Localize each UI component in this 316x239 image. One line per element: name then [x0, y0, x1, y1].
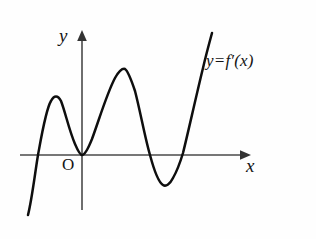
x-axis-label: x [246, 156, 254, 175]
y-axis-arrow-icon [77, 30, 87, 41]
y-axis-label: y [59, 26, 67, 45]
function-label: y=f′(x) [206, 52, 254, 69]
graph-canvas [0, 0, 316, 239]
origin-label: O [62, 156, 74, 173]
function-curve [28, 33, 212, 215]
math-figure: y x O y=f′(x) [0, 0, 316, 239]
